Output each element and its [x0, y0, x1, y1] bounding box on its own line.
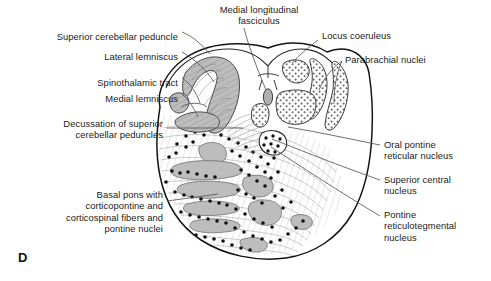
basal-pons-region: [156, 110, 346, 256]
label-locus-coeruleus: Locus coeruleus: [322, 30, 391, 41]
label-parabrachial-nuclei: Parabrachial nuclei: [345, 54, 426, 65]
label-superior-central-nucleus: Superior central nucleus: [384, 174, 451, 197]
leader-superior-cerebellar-peduncle: [182, 32, 210, 54]
label-lateral-lemniscus: Lateral lemniscus: [8, 51, 178, 62]
label-medial-lemniscus: Medial lemniscus: [8, 93, 178, 104]
leader-medial-longitudinal-fasciculus: [244, 28, 266, 90]
label-decussation-of-superior-cerebellar-peduncles: Decussation of superior cerebellar pedun…: [3, 118, 163, 141]
oral-pontine-reticular-nucleus: [276, 90, 316, 124]
label-pontine-reticulotegmental-nucleus: Pontine reticulotegmental nucleus: [384, 209, 456, 243]
label-medial-longitudinal-fasciculus: Medial longitudinal fasciculus: [199, 4, 319, 27]
label-spinothalamic-tract: Spinothalamic tract: [8, 77, 178, 88]
figure-panel: Superior cerebellar peduncle Lateral lem…: [0, 0, 491, 281]
medial-longitudinal-fasciculus: [263, 89, 272, 105]
panel-letter: D: [18, 250, 27, 265]
superior-central-nucleus: [251, 103, 269, 127]
label-superior-cerebellar-peduncle: Superior cerebellar peduncle: [8, 31, 178, 42]
label-basal-pons: Basal pons with corticopontine and corti…: [3, 189, 163, 235]
locus-coeruleus: [282, 60, 309, 83]
label-oral-pontine-reticular-nucleus: Oral pontine reticular nucleus: [384, 139, 453, 162]
parabrachial-nucleus-lateral: [325, 61, 348, 130]
mlf-stalk-right: [274, 80, 277, 90]
mlf-stalk-left: [259, 80, 262, 90]
